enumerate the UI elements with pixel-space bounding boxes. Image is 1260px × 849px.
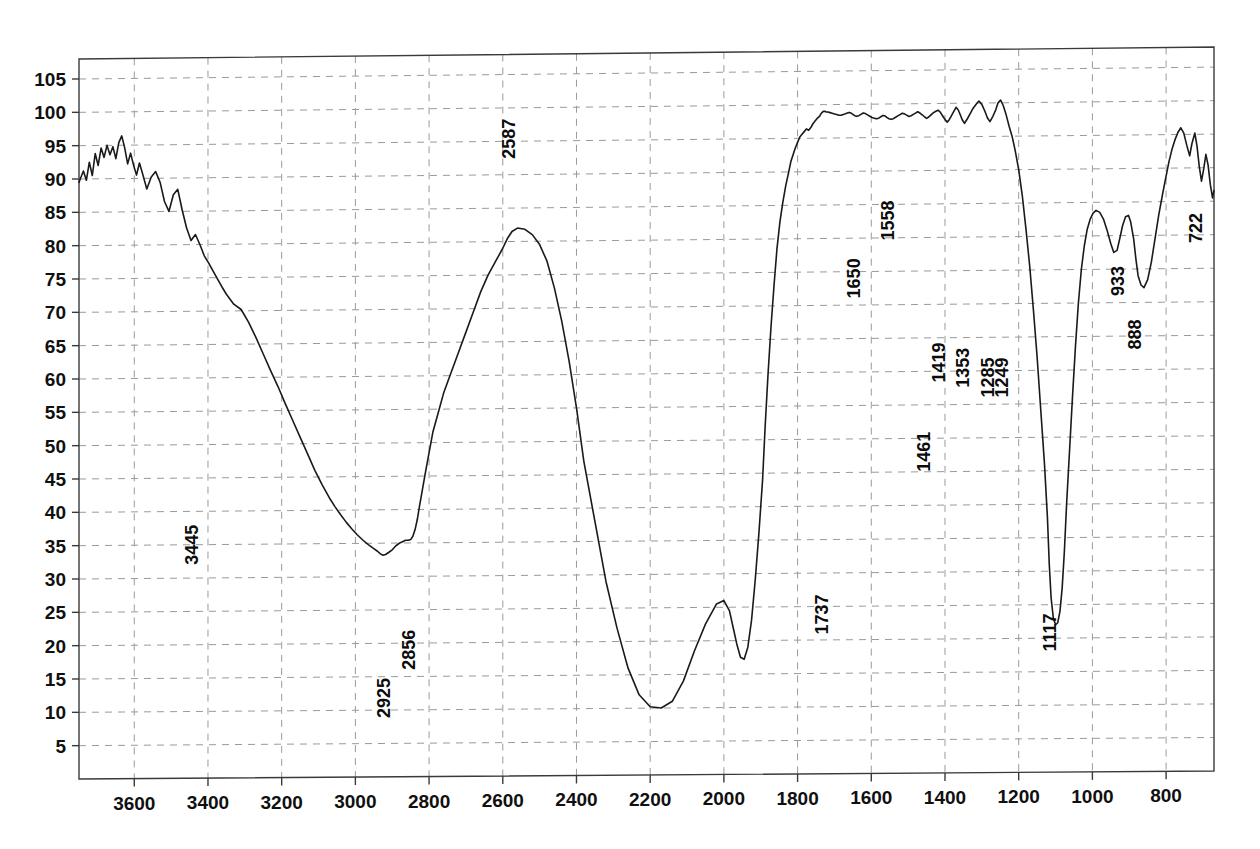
peak-label: 2587: [499, 119, 519, 159]
y-axis-tick-label: 20: [45, 636, 66, 657]
x-axis-tick-label: 800: [1150, 785, 1182, 806]
y-axis-tick-label: 80: [45, 236, 66, 257]
x-axis-tick-label: 1400: [924, 787, 966, 808]
x-axis-tick-label: 1800: [776, 788, 818, 809]
peak-label-text: 1650: [844, 258, 864, 298]
x-axis-tick-label: 2200: [629, 789, 671, 810]
y-axis-tick-label: 45: [45, 469, 67, 490]
y-axis-tick-label: 95: [45, 136, 67, 157]
peak-label-text: 2856: [399, 630, 419, 670]
y-axis-tick-label: 55: [45, 402, 67, 423]
x-axis-tick-label: 3600: [113, 793, 155, 814]
y-axis-tick-label: 25: [45, 602, 67, 623]
peak-label-text: 933: [1108, 266, 1128, 296]
y-axis-tick-label: 100: [34, 102, 66, 123]
peak-label-text: 1419: [929, 343, 949, 383]
peak-label-text: 1558: [878, 200, 898, 240]
y-axis-tick-label: 15: [45, 669, 67, 690]
y-axis-tick-label: 75: [45, 269, 67, 290]
y-axis-tick-label: 40: [45, 502, 66, 523]
peak-label-text: 1461: [914, 432, 934, 472]
peak-label-text: 1737: [812, 595, 832, 635]
peak-label-text: 3445: [182, 525, 202, 565]
peak-label-text: 2925: [374, 678, 394, 718]
peak-label: 1461: [914, 432, 934, 472]
peak-label: 2925: [374, 678, 394, 718]
peak-label-text: 888: [1125, 319, 1145, 349]
y-axis-tick-label: 85: [45, 202, 67, 223]
peak-label: 888: [1125, 319, 1145, 349]
x-axis-tick-label: 2600: [482, 790, 524, 811]
peak-label-text: 1117: [1040, 614, 1060, 652]
peak-label: 1558: [878, 200, 898, 240]
peak-label: 1650: [844, 258, 864, 298]
peak-label: 1249: [992, 357, 1012, 397]
peak-label: 2856: [399, 630, 419, 670]
x-axis-tick-label: 2400: [555, 789, 597, 810]
ftir-spectrum-chart: 5101520253035404550556065707580859095100…: [0, 0, 1260, 849]
peak-label-text: 2587: [499, 119, 519, 159]
y-axis-tick-label: 90: [45, 169, 66, 190]
peak-label: 1737: [812, 595, 832, 635]
peak-label: 1117: [1040, 614, 1060, 652]
y-axis-tick-label: 5: [55, 736, 66, 757]
peak-label: 933: [1108, 266, 1128, 296]
peak-label: 3445: [182, 525, 202, 565]
peak-label: 1419: [929, 343, 949, 383]
x-axis-tick-label: 3000: [334, 791, 376, 812]
x-axis-tick-label: 2800: [408, 791, 450, 812]
y-axis-tick-label: 30: [45, 569, 66, 590]
peak-label-text: 1249: [992, 357, 1012, 397]
x-axis-tick-label: 1200: [998, 786, 1040, 807]
x-axis-tick-label: 3400: [187, 792, 229, 813]
x-axis-tick-label: 1000: [1071, 786, 1113, 807]
y-axis-tick-label: 50: [45, 436, 66, 457]
x-axis-tick-label: 3200: [261, 792, 303, 813]
peak-label-text: 722: [1186, 213, 1206, 243]
y-axis-tick-label: 65: [45, 336, 67, 357]
peak-label-text: 1353: [953, 348, 973, 388]
x-axis-tick-label: 1600: [850, 787, 892, 808]
y-axis-tick-label: 60: [45, 369, 66, 390]
y-axis-tick-label: 105: [34, 69, 66, 90]
y-axis-tick-label: 70: [45, 302, 66, 323]
y-axis-tick-label: 35: [45, 536, 67, 557]
peak-label: 1353: [953, 348, 973, 388]
x-axis-tick-label: 2000: [703, 788, 745, 809]
y-axis-tick-label: 10: [45, 702, 66, 723]
spectrum-page: 5101520253035404550556065707580859095100…: [0, 0, 1260, 849]
peak-label: 722: [1186, 213, 1206, 243]
